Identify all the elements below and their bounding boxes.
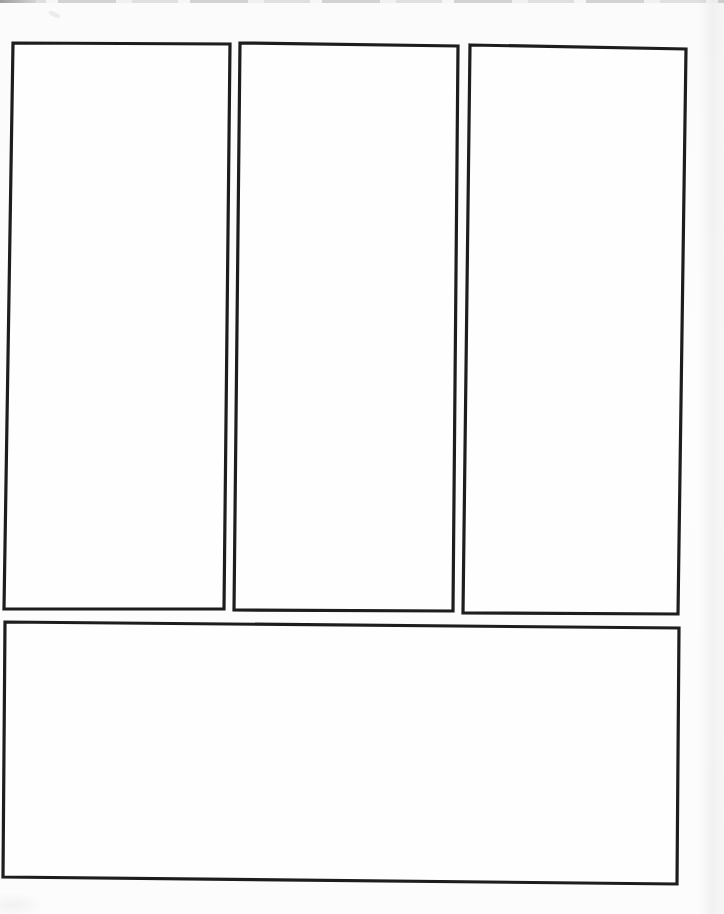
scanned-page xyxy=(0,0,724,914)
panel-2 xyxy=(234,43,458,611)
panel-grid xyxy=(0,0,724,914)
panel-4 xyxy=(3,622,679,884)
panel-1 xyxy=(4,43,230,609)
panel-3 xyxy=(463,45,686,614)
